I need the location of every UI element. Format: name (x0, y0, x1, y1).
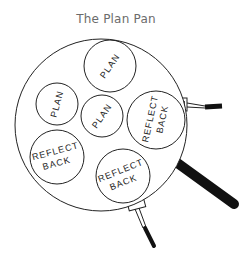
plan-pan-diagram: PLAN PLAN PLAN REFLECT BACK REFLECT BACK… (0, 0, 250, 260)
pan-side-handle-right (180, 98, 222, 111)
pan-main-handle (176, 162, 234, 204)
